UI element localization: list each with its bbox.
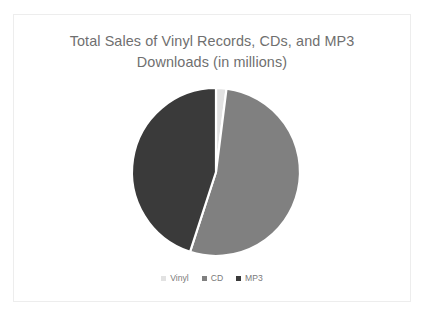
legend-item-cd[interactable]: CD [202, 273, 223, 283]
legend-item-mp3[interactable]: MP3 [236, 273, 263, 283]
legend-label: CD [211, 273, 223, 283]
legend-swatch-icon [236, 276, 241, 281]
legend-swatch-icon [161, 276, 166, 281]
legend-label: Vinyl [170, 273, 188, 283]
pie-chart-area [14, 15, 412, 303]
legend-label: MP3 [245, 273, 263, 283]
pie-chart-svg [14, 15, 412, 303]
chart-legend: VinylCDMP3 [14, 273, 410, 283]
legend-swatch-icon [202, 276, 207, 281]
chart-card: Total Sales of Vinyl Records, CDs, and M… [13, 14, 411, 302]
pie-slices-group [132, 88, 300, 256]
legend-item-vinyl[interactable]: Vinyl [161, 273, 188, 283]
